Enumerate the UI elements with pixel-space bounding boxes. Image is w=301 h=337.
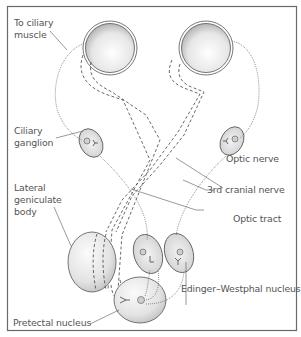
diagram-labels: To ciliary muscle Ciliary ganglion Later… — [13, 17, 301, 328]
label-third-cranial-nerve: 3rd cranial nerve — [207, 184, 285, 195]
label-lateral-geniculate-2: geniculate — [14, 194, 62, 205]
label-edinger-westphal: Edinger–Westphal nucleus — [181, 283, 301, 294]
label-pretectal-nucleus: Pretectal nucleus — [13, 317, 91, 328]
right-eye — [179, 21, 233, 75]
label-optic-tract: Optic tract — [233, 213, 282, 224]
lateral-geniculate-body — [68, 232, 116, 292]
left-ciliary-ganglion — [74, 125, 108, 162]
label-lateral-geniculate: Lateral — [14, 182, 46, 193]
left-eye — [83, 21, 137, 75]
pupillary-reflex-diagram: To ciliary muscle Ciliary ganglion Later… — [0, 0, 301, 337]
right-edinger-westphal-nucleus — [160, 230, 199, 277]
left-edinger-westphal-nucleus — [129, 231, 168, 278]
label-ciliary-ganglion: Ciliary — [14, 125, 43, 136]
label-ciliary-muscle-2: muscle — [14, 29, 47, 40]
label-lateral-geniculate-3: body — [14, 206, 37, 217]
label-ciliary-ganglion-2: ganglion — [14, 137, 53, 148]
label-optic-nerve: Optic nerve — [226, 153, 279, 164]
label-ciliary-muscle: To ciliary — [13, 17, 54, 28]
